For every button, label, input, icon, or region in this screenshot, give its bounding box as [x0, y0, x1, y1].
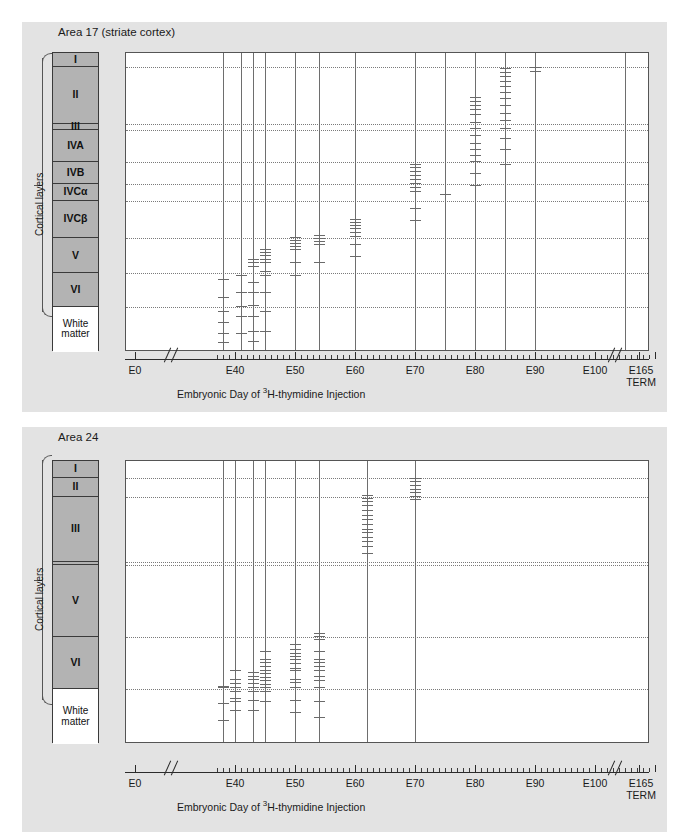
axis-minor-tick [331, 355, 332, 359]
axis-minor-tick [241, 355, 242, 359]
injection-line-e60 [355, 53, 356, 350]
neuron-birthdate-marker [248, 259, 259, 260]
caption-post: H-thymidine Injection [267, 801, 365, 813]
neuron-birthdate-marker [230, 698, 241, 699]
neuron-birthdate-marker [290, 668, 301, 669]
axis-break-mark [615, 760, 622, 775]
neuron-birthdate-marker [410, 179, 421, 180]
axis-minor-tick [625, 355, 626, 359]
axis-minor-tick [595, 765, 596, 772]
neuron-birthdate-marker [350, 236, 361, 237]
axis-minor-tick [301, 355, 302, 359]
neuron-birthdate-marker [248, 691, 259, 692]
neuron-birthdate-marker [290, 649, 301, 650]
axis-minor-tick [223, 355, 224, 359]
neuron-birthdate-marker [260, 687, 271, 688]
neuron-birthdate-marker [314, 676, 325, 677]
neuron-birthdate-marker [290, 240, 301, 241]
neuron-birthdate-marker [314, 670, 325, 671]
axis-minor-tick [247, 768, 248, 772]
axis-minor-tick [631, 768, 632, 772]
axis-minor-tick [571, 355, 572, 359]
layer-label: II [73, 481, 79, 492]
axis-minor-tick [577, 355, 578, 359]
axis-minor-tick [355, 765, 356, 772]
neuron-birthdate-marker [290, 659, 301, 660]
neuron-birthdate-marker [290, 644, 301, 645]
axis-minor-tick [343, 768, 344, 772]
axis-minor-tick [649, 768, 650, 772]
axis-minor-tick [475, 352, 476, 359]
axis-minor-tick [385, 355, 386, 359]
neuron-birthdate-marker [410, 485, 421, 486]
layer-boundary-line [126, 562, 648, 563]
neuron-birthdate-marker [500, 86, 511, 87]
neuron-birthdate-marker [410, 220, 421, 221]
injection-line-e70 [415, 53, 416, 350]
layer-box-ivc-: IVCβ [53, 201, 98, 239]
neuron-birthdate-marker [260, 252, 271, 253]
layer-boundary-line [126, 637, 648, 638]
axis-minor-tick [529, 355, 530, 359]
axis-minor-tick [289, 355, 290, 359]
neuron-birthdate-marker [260, 662, 271, 663]
axis-tick-label: E80 [457, 364, 493, 376]
neuron-birthdate-marker [500, 81, 511, 82]
neuron-birthdate-marker [218, 720, 229, 721]
layer-boundary-line [126, 238, 648, 239]
axis-minor-tick [655, 765, 656, 772]
axis-minor-tick [619, 355, 620, 359]
axis-minor-tick [553, 355, 554, 359]
neuron-birthdate-marker [236, 292, 247, 293]
term-line1: E165 [629, 777, 654, 789]
neuron-birthdate-marker [470, 114, 481, 115]
neuron-birthdate-marker [470, 143, 481, 144]
injection-line-e62 [367, 461, 368, 742]
neuron-birthdate-marker [218, 342, 229, 343]
axis-minor-tick [469, 768, 470, 772]
axis-minor-tick [439, 355, 440, 359]
neuron-birthdate-marker [260, 659, 271, 660]
neuron-birthdate-marker [362, 505, 373, 506]
neuron-birthdate-marker [410, 478, 421, 479]
axis-minor-tick [553, 768, 554, 772]
axis-minor-tick [361, 768, 362, 772]
axis-minor-tick [463, 768, 464, 772]
axis-minor-tick [349, 768, 350, 772]
axis-minor-tick [589, 355, 590, 359]
neuron-birthdate-marker [236, 316, 247, 317]
neuron-birthdate-marker [248, 683, 259, 684]
neuron-birthdate-marker [500, 164, 511, 165]
axis-major-tick-e0 [135, 352, 136, 359]
axis-minor-tick [505, 355, 506, 359]
axis-minor-tick [259, 355, 260, 359]
neuron-birthdate-marker [500, 149, 511, 150]
neuron-birthdate-marker [314, 651, 325, 652]
layer-label: IVCβ [64, 213, 88, 224]
neuron-birthdate-marker [350, 222, 361, 223]
neuron-birthdate-marker [248, 700, 259, 701]
layer-boundary-line [126, 273, 648, 274]
x-axis-caption: Embryonic Day of 3H-thymidine Injection [177, 386, 365, 400]
axis-minor-tick [331, 768, 332, 772]
axis-minor-tick [457, 768, 458, 772]
neuron-birthdate-marker [260, 670, 271, 671]
neuron-birthdate-marker [410, 191, 421, 192]
injection-line-e75 [445, 53, 446, 350]
axis-minor-tick [565, 355, 566, 359]
axis-tick-label: E40 [217, 777, 253, 789]
neuron-birthdate-marker [290, 237, 301, 238]
neuron-birthdate-marker [500, 72, 511, 73]
neuron-birthdate-marker [230, 710, 241, 711]
axis-term-label: E165TERM [621, 364, 661, 388]
neuron-birthdate-marker [362, 541, 373, 542]
neuron-birthdate-marker [260, 292, 271, 293]
layer-label: V [72, 250, 79, 261]
neuron-birthdate-marker [362, 529, 373, 530]
axis-minor-tick [499, 355, 500, 359]
axis-minor-tick [313, 768, 314, 772]
axis-minor-tick [247, 355, 248, 359]
neuron-birthdate-marker [470, 149, 481, 150]
axis-minor-tick [367, 355, 368, 359]
axis-minor-tick [301, 768, 302, 772]
